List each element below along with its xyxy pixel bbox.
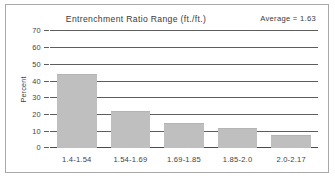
y-tick-mark <box>44 97 49 98</box>
bar <box>111 111 151 148</box>
plot-area: 010203040506070 <box>50 30 318 148</box>
bar <box>57 74 97 148</box>
chart-header: Entrenchment Ratio Range (ft./ft.) Avera… <box>36 14 318 29</box>
average-annotation: Average = 1.63 <box>260 14 316 23</box>
figure-frame: Entrenchment Ratio Range (ft./ft.) Avera… <box>5 4 329 173</box>
y-tick-mark <box>44 147 49 148</box>
y-tick-label: 30 <box>32 93 41 102</box>
y-tick-label: 20 <box>32 110 41 119</box>
chart-title: Entrenchment Ratio Range (ft./ft.) <box>36 14 236 24</box>
y-tick-label: 50 <box>32 59 41 68</box>
bars-layer <box>50 30 318 148</box>
x-tick-label: 1.69-1.85 <box>167 155 201 164</box>
y-axis-title: Percent <box>18 30 28 148</box>
y-tick-mark <box>44 47 49 48</box>
y-tick-mark <box>44 131 49 132</box>
x-tick-label: 1.85-2.0 <box>223 155 252 164</box>
y-tick-mark <box>44 114 49 115</box>
y-tick-label: 0 <box>37 143 41 152</box>
x-axis-labels: 1.4-1.541.54-1.691.69-1.851.85-2.02.0-2.… <box>50 155 318 167</box>
x-tick-label: 1.4-1.54 <box>62 155 91 164</box>
bar <box>218 128 258 148</box>
bar <box>271 135 311 148</box>
y-tick-mark <box>44 81 49 82</box>
y-tick-mark <box>44 30 49 31</box>
y-tick-label: 60 <box>32 42 41 51</box>
y-axis-title-text: Percent <box>19 76 28 102</box>
y-tick-label: 40 <box>32 76 41 85</box>
x-tick-label: 1.54-1.69 <box>113 155 147 164</box>
x-tick-label: 2.0-2.17 <box>276 155 305 164</box>
y-tick-label: 10 <box>32 127 41 136</box>
y-tick-label: 70 <box>32 26 41 35</box>
bar <box>164 123 204 148</box>
y-tick-mark <box>44 64 49 65</box>
